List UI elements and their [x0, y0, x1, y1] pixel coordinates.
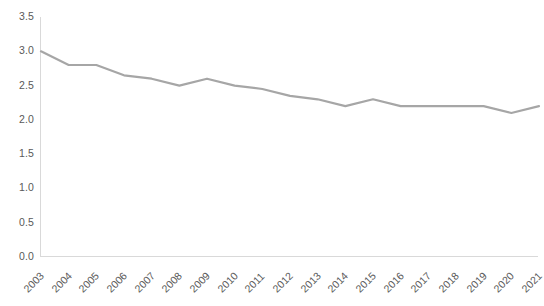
y-tick-label: 1.0 [0, 182, 34, 193]
x-tick-label: 2007 [132, 270, 157, 295]
series-line-svg [41, 17, 539, 257]
x-tick-label: 2018 [437, 270, 462, 295]
x-tick-label: 2017 [409, 270, 434, 295]
series-line [41, 51, 539, 113]
y-tick-label: 0.0 [0, 251, 34, 262]
y-tick-label: 2.5 [0, 80, 34, 91]
x-tick-label: 2014 [326, 270, 351, 295]
x-tick-label: 2012 [271, 270, 296, 295]
y-tick-label: 3.0 [0, 45, 34, 56]
x-tick-label: 2019 [464, 270, 489, 295]
x-axis-tick-labels: 2003200420052006200720082009201020112012… [40, 258, 538, 298]
x-tick-label: 2011 [243, 271, 267, 295]
y-axis-tick-labels: 0.00.51.01.52.02.53.03.5 [0, 0, 34, 274]
y-tick-label: 3.5 [0, 11, 34, 22]
y-tick-label: 2.0 [0, 114, 34, 125]
x-tick-label: 2020 [492, 270, 517, 295]
line-chart: 0.00.51.01.52.02.53.03.5 200320042005200… [0, 0, 544, 306]
x-tick-label: 2006 [105, 270, 130, 295]
figure-caption [8, 297, 536, 306]
y-tick-label: 1.5 [0, 148, 34, 159]
plot-area [40, 17, 538, 257]
x-tick-label: 2015 [354, 270, 379, 295]
x-tick-label: 2016 [381, 270, 406, 295]
x-tick-label: 2013 [298, 270, 323, 295]
x-tick-label: 2008 [160, 270, 185, 295]
x-tick-label: 2021 [520, 270, 544, 295]
y-tick-label: 0.5 [0, 217, 34, 228]
x-tick-label: 2004 [49, 270, 74, 295]
x-tick-label: 2010 [215, 270, 240, 295]
x-tick-label: 2009 [188, 270, 213, 295]
x-tick-label: 2005 [77, 270, 102, 295]
